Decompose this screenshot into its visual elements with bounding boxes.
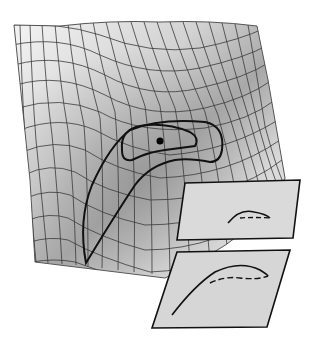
- optimum-point: [157, 138, 164, 145]
- diagram-canvas: [0, 0, 317, 347]
- upper-projection-panel: [177, 180, 300, 240]
- surface: [10, 22, 287, 291]
- surface-diagram: [0, 0, 317, 347]
